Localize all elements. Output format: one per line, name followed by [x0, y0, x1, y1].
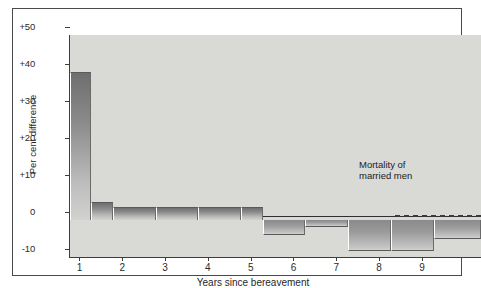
- y-tick-label-+10: +10: [19, 169, 35, 180]
- x-tick-label-5: 5: [240, 262, 262, 273]
- y-tick-label--10: -10: [22, 243, 35, 254]
- bar: [263, 220, 306, 235]
- x-tick-5: [251, 257, 252, 261]
- y-tick-+50: [65, 27, 70, 28]
- bar: [348, 220, 391, 251]
- married-men-reference-line: [395, 215, 481, 217]
- x-tick-7: [336, 257, 337, 261]
- x-tick-2: [122, 257, 123, 261]
- mortality-annotation: Mortality of married men: [359, 159, 455, 181]
- annotation-line-1: Mortality of: [359, 159, 455, 170]
- x-tick-label-1: 1: [68, 262, 90, 273]
- bar: [434, 220, 481, 239]
- x-tick-4: [208, 257, 209, 261]
- x-tick-label-6: 6: [282, 262, 304, 273]
- figure-frame: Per cent difference +50+40+30+20+100-10 …: [12, 8, 462, 276]
- plot-inner: [70, 35, 481, 257]
- y-tick-label-+20: +20: [19, 132, 35, 143]
- y-tick-label-0: 0: [30, 206, 35, 217]
- x-tick-label-2: 2: [111, 262, 133, 273]
- x-tick-6: [293, 257, 294, 261]
- y-tick-label-+40: +40: [19, 58, 35, 69]
- x-tick-label-3: 3: [154, 262, 176, 273]
- bar: [91, 202, 112, 221]
- x-axis-title: Years since bereavement: [143, 277, 363, 288]
- bar: [198, 207, 241, 220]
- x-tick-label-4: 4: [197, 262, 219, 273]
- x-tick-label-7: 7: [325, 262, 347, 273]
- y-tick-label-+30: +30: [19, 95, 35, 106]
- x-tick-3: [165, 257, 166, 261]
- annotation-line-2: married men: [359, 170, 455, 181]
- bar: [156, 207, 199, 220]
- plot-area: [70, 35, 481, 257]
- bar: [391, 220, 434, 251]
- x-tick-9: [422, 257, 423, 261]
- x-tick-1: [79, 257, 80, 261]
- x-tick-label-9: 9: [411, 262, 433, 273]
- y-tick-label-+50: +50: [19, 21, 35, 32]
- x-tick-label-8: 8: [368, 262, 390, 273]
- x-tick-8: [379, 257, 380, 261]
- bar: [241, 207, 262, 220]
- x-axis-line: [69, 257, 481, 258]
- bar: [113, 207, 156, 220]
- bar: [305, 220, 348, 227]
- bar: [70, 72, 91, 220]
